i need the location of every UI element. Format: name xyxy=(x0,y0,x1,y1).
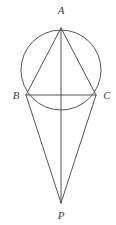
segment-c-p xyxy=(61,95,96,203)
segment-a-b xyxy=(26,28,61,95)
vertex-label-c: C xyxy=(103,89,111,101)
segment-a-c xyxy=(61,28,96,95)
segment-layer xyxy=(26,28,96,203)
geometry-figure: ABCP xyxy=(0,0,116,225)
vertex-label-p: P xyxy=(57,209,65,221)
vertex-label-b: B xyxy=(13,89,20,101)
geometry-canvas: ABCP xyxy=(0,0,116,225)
vertex-label-a: A xyxy=(57,4,65,16)
segment-b-p xyxy=(26,95,61,203)
label-layer: ABCP xyxy=(13,4,112,221)
